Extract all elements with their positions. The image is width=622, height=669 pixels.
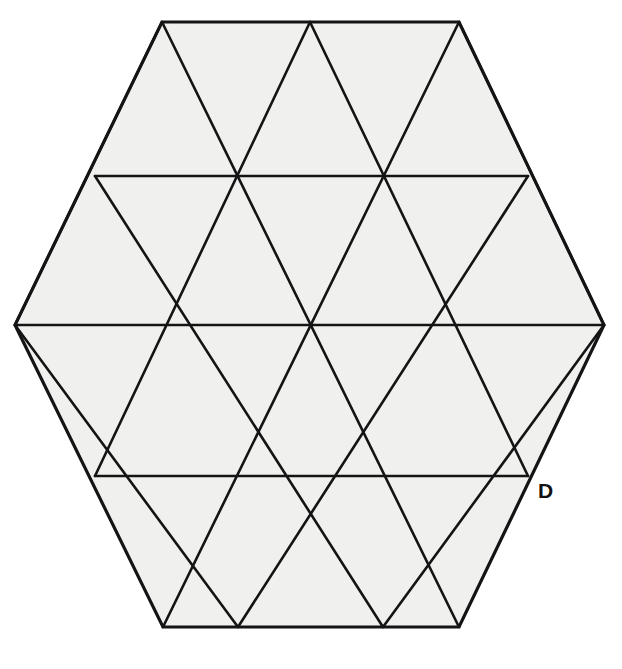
vertex-label-d: D (538, 480, 553, 501)
hexagon-figure (0, 0, 622, 669)
